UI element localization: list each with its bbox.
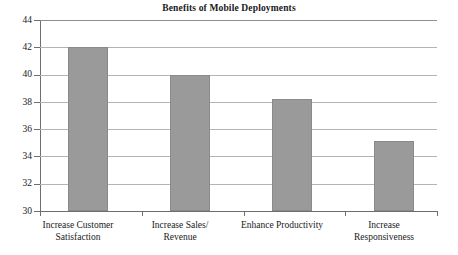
y-axis-labels: 44 42 40 38 36 34 32 30 [0, 0, 32, 255]
x-tick-mark-2 [244, 211, 245, 216]
bar-chart: Benefits of Mobile Deployments 44 42 40 … [0, 0, 458, 255]
bar-enhance-productivity[interactable] [272, 99, 312, 211]
plot-area [40, 20, 437, 211]
bar-increase-responsiveness[interactable] [374, 141, 414, 211]
y-tick-label-34: 34 [2, 152, 32, 162]
bar-increase-customer-satisfaction[interactable] [68, 47, 108, 211]
x-axis-label-3-line1: Increase [368, 220, 400, 230]
x-tick-mark-0 [40, 211, 41, 216]
x-axis-label-0-line1: Increase Customer [43, 220, 114, 230]
gridline-baseline-30 [40, 211, 437, 212]
x-tick-mark-1 [142, 211, 143, 216]
x-axis-label-1-line2: Revenue [120, 231, 240, 243]
y-tick-label-42: 42 [2, 43, 32, 53]
x-axis-label-2-line1: Enhance Productivity [241, 220, 323, 230]
chart-title: Benefits of Mobile Deployments [0, 3, 458, 14]
y-tick-label-32: 32 [2, 179, 32, 189]
y-tick-label-36: 36 [2, 125, 32, 135]
gridline-44 [40, 20, 437, 21]
y-tick-label-30: 30 [2, 207, 32, 217]
x-tick-mark-3 [345, 211, 346, 216]
bar-increase-sales-revenue[interactable] [170, 75, 210, 211]
y-tick-label-44: 44 [2, 16, 32, 26]
x-axis-label-1-line1: Increase Sales/ [152, 220, 209, 230]
y-tick-label-38: 38 [2, 98, 32, 108]
x-tick-mark-4 [437, 211, 438, 216]
x-axis-label-3-line2: Responsiveness [324, 231, 444, 243]
x-axis-label-3: Increase Responsiveness [324, 219, 444, 243]
y-tick-label-40: 40 [2, 70, 32, 80]
